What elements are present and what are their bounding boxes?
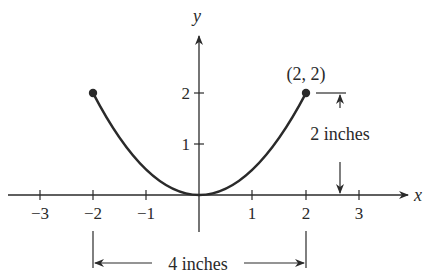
x-axis-label: x	[413, 185, 422, 205]
x-tick-neg3: −3	[31, 204, 49, 223]
y-axis-label: y	[191, 6, 201, 26]
x-tick-2: 2	[302, 204, 311, 223]
vertical-dimension-label: 2 inches	[310, 124, 369, 144]
y-tick-1: 1	[182, 135, 191, 154]
horizontal-dimension-label: 4 inches	[168, 254, 227, 274]
endpoint-right	[302, 89, 310, 97]
x-tick-neg2: −2	[84, 204, 102, 223]
parabola-diagram: x −3 −2 −1 1 2 3 y 1 2 (2, 2)	[0, 0, 437, 278]
x-tick-neg1: −1	[137, 204, 155, 223]
y-axis: y 1 2	[182, 6, 205, 232]
point-label: (2, 2)	[287, 64, 326, 85]
x-tick-3: 3	[355, 204, 364, 223]
horizontal-dimension: 4 inches	[93, 231, 306, 274]
x-tick-1: 1	[248, 204, 257, 223]
y-tick-2: 2	[182, 84, 191, 103]
vertical-dimension: 2 inches	[310, 93, 369, 193]
endpoint-left	[89, 89, 97, 97]
x-axis: x −3 −2 −1 1 2 3	[8, 185, 422, 223]
